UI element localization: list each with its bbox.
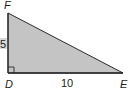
side-label-de: 10 <box>61 77 73 89</box>
vertex-label-d: D <box>5 78 13 90</box>
triangle-def <box>8 13 123 73</box>
right-triangle-diagram: F D E 5 10 <box>0 0 131 95</box>
vertex-label-f: F <box>4 0 12 11</box>
side-label-df: 5 <box>0 38 6 50</box>
vertex-label-e: E <box>120 78 128 90</box>
